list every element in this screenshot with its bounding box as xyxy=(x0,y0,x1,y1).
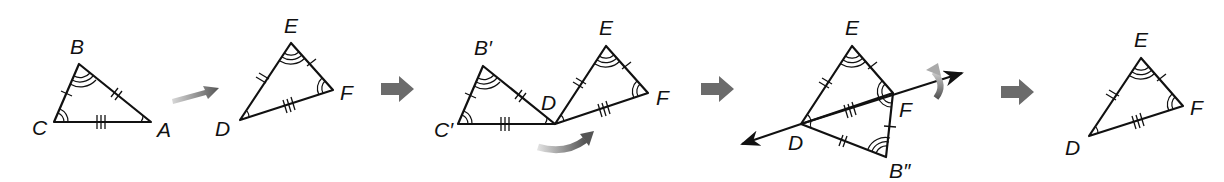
vertex-label-d-step2: D xyxy=(541,91,556,114)
vertex-label-d-final: D xyxy=(1065,136,1080,159)
vertex-label-f: F xyxy=(340,81,354,104)
step-arrow-icon xyxy=(1001,79,1034,105)
rotation-arrow-icon xyxy=(538,131,594,150)
vertex-label-b-prime: B′ xyxy=(474,36,493,59)
triangle-b-prime-c-prime-d: B′ C′ D xyxy=(434,36,556,141)
vertex-label-f-step3: F xyxy=(899,98,913,121)
reflection-line xyxy=(742,73,962,144)
vertex-label-a: A xyxy=(155,118,171,141)
triangle-abc: B C A xyxy=(32,35,171,141)
vertex-label-c: C xyxy=(32,116,48,139)
translation-arrow-icon xyxy=(172,86,219,104)
transformation-diagram: B C A E F D xyxy=(0,0,1224,182)
triangle-def-final: E F D xyxy=(1065,28,1204,159)
triangle-def-2: E F xyxy=(555,16,670,124)
triangle-def-b-double-prime: E F D B″ xyxy=(788,16,913,182)
vertex-label-e-step2: E xyxy=(599,16,614,39)
vertex-label-c-prime: C′ xyxy=(434,118,454,141)
step-arrow-icon xyxy=(381,76,414,102)
reflection-flip-arrow-icon xyxy=(926,63,941,98)
vertex-label-e-final: E xyxy=(1134,28,1149,51)
step-arrow-icon xyxy=(701,76,734,102)
vertex-label-d-step3: D xyxy=(788,131,803,154)
vertex-label-e: E xyxy=(284,14,299,37)
vertex-label-f-step2: F xyxy=(656,86,670,109)
vertex-label-d: D xyxy=(215,117,230,140)
triangle-def-1: E F D xyxy=(215,14,354,140)
vertex-label-b-double-prime: B″ xyxy=(889,159,912,182)
vertex-label-b: B xyxy=(70,35,84,58)
vertex-label-e-step3: E xyxy=(845,16,860,39)
vertex-label-f-final: F xyxy=(1190,96,1204,119)
